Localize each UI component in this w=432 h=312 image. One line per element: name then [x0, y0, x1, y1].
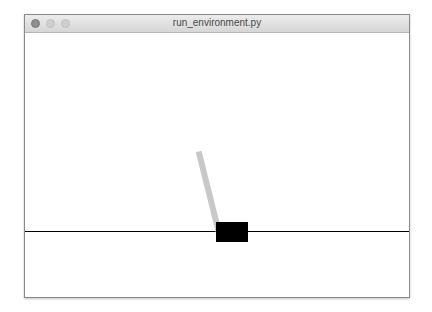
app-window: run_environment.py — [24, 14, 410, 298]
title-bar[interactable]: run_environment.py — [25, 15, 409, 33]
window-title: run_environment.py — [25, 17, 409, 28]
render-canvas — [25, 32, 409, 297]
cart — [216, 222, 248, 242]
